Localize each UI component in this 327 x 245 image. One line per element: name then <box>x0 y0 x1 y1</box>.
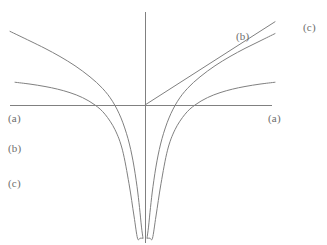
curve-label-a-left: (a) <box>8 113 21 124</box>
curve-label-b-left: (b) <box>8 143 21 154</box>
curve-label-a-right: (a) <box>268 113 281 124</box>
curve-label-c-right: (c) <box>303 22 316 33</box>
curve-label-c-left: (c) <box>8 178 21 189</box>
curve-label-b-right: (b) <box>236 31 249 42</box>
figure-container: (a) (a) (b) (b) (c) (c) <box>0 0 327 245</box>
